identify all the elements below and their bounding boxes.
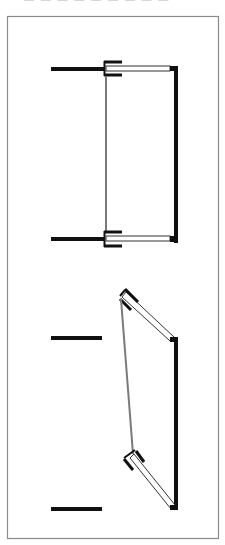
figure-open <box>51 289 178 510</box>
lower-swing-panel <box>124 450 175 509</box>
panel-bottom <box>106 236 170 241</box>
corner-bottom <box>170 236 178 242</box>
frame-border <box>8 17 219 539</box>
figure-closed <box>51 61 178 247</box>
corner-top <box>170 337 178 342</box>
corner-top <box>170 66 178 71</box>
corner-bottom <box>170 505 178 510</box>
panel-top <box>106 66 170 71</box>
center-link-slanted <box>121 299 133 454</box>
upper-swing-panel <box>120 289 174 341</box>
panel-upper <box>122 292 174 341</box>
hinge-diagram <box>0 0 225 545</box>
panel-lower <box>130 454 175 509</box>
